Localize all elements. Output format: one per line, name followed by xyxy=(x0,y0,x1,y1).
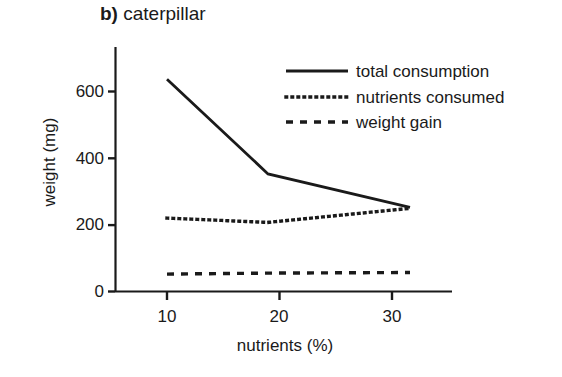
caterpillar-line-chart: b) caterpillar weight (mg) nutrients (%)… xyxy=(0,0,562,377)
plot-area xyxy=(0,0,562,377)
series-line-nutrients-consumed xyxy=(167,208,410,222)
series-line-total-consumption xyxy=(167,79,410,207)
series-line-weight-gain xyxy=(167,273,410,275)
